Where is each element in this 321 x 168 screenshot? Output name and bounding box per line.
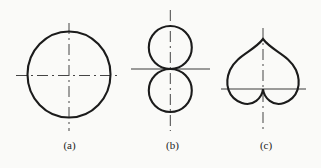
curves-figure-svg: (a) (b) (c) [0,0,321,168]
figure-canvas: (a) (b) (c) [0,0,321,168]
panel-b: (b) [131,10,210,152]
panel-c: (c) [221,28,306,152]
panel-b-caption: (b) [166,139,179,152]
panel-a: (a) [16,23,120,152]
panel-a-caption: (a) [63,139,76,152]
panel-c-caption: (c) [260,139,273,152]
